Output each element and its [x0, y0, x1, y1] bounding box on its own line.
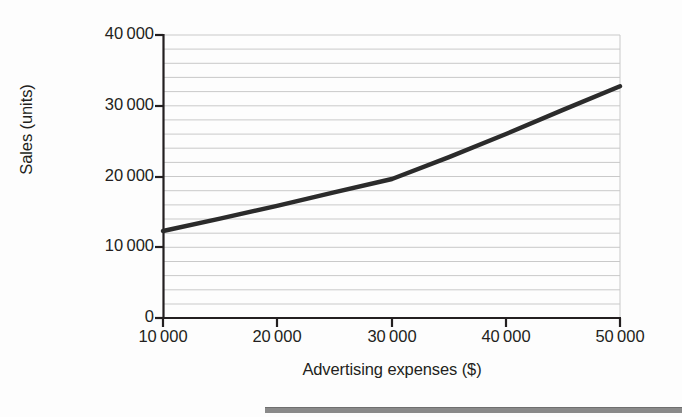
- bottom-rule: [265, 407, 682, 413]
- x-axis-ticks: [163, 318, 620, 327]
- minor-gridlines: [163, 35, 620, 304]
- x-axis-title: Advertising expenses ($): [163, 360, 621, 379]
- x-tick-label-10000: 10 000: [103, 327, 223, 346]
- x-tick-label-50000: 50 000: [560, 327, 680, 346]
- series-sales-line: [163, 86, 620, 231]
- x-tick-label-30000: 30 000: [332, 327, 452, 346]
- x-tick-label-40000: 40 000: [446, 327, 566, 346]
- plot-area: [0, 0, 682, 417]
- x-tick-label-20000: 20 000: [217, 327, 337, 346]
- chart-figure: Sales (units) 0 10 000 20 000 30 000 40 …: [0, 0, 682, 417]
- y-axis-ticks: [155, 35, 163, 318]
